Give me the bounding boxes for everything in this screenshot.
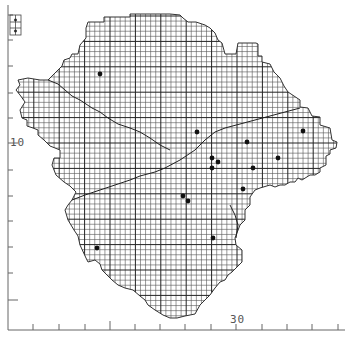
record-dot <box>210 156 215 161</box>
y-axis-label: 10 <box>10 136 25 149</box>
record-dot <box>216 160 221 165</box>
record-dot <box>241 187 246 192</box>
record-dot <box>245 140 250 145</box>
bottom-axis <box>8 321 345 330</box>
distribution-map <box>0 0 347 338</box>
grid <box>0 0 347 338</box>
record-dot <box>276 156 281 161</box>
x-axis-label: 30 <box>230 313 245 326</box>
record-dot <box>210 166 215 171</box>
record-dot <box>186 199 191 204</box>
record-dot <box>211 236 216 241</box>
left-axis <box>8 5 18 330</box>
record-dot <box>195 130 200 135</box>
record-dot <box>98 72 103 77</box>
record-dot <box>301 129 306 134</box>
legend-key <box>10 15 21 35</box>
record-dot <box>181 194 186 199</box>
record-dot <box>95 246 100 251</box>
record-dot <box>251 166 256 171</box>
